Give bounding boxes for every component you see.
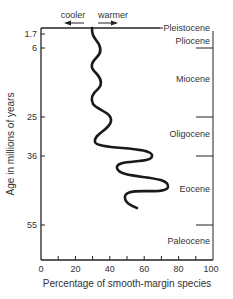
epoch-label-oligocene: Oligocene <box>169 129 210 139</box>
y-tick-label: 55 <box>27 220 37 230</box>
x-tick-label: 0 <box>38 264 43 274</box>
epoch-label-pliocene: Pliocene <box>175 36 210 46</box>
y-tick-label: 25 <box>27 112 37 122</box>
y-axis-label: Age in millions of years <box>5 93 16 196</box>
x-tick-label: 40 <box>105 264 115 274</box>
epoch-label-pleistocene: Pleistocene <box>163 23 210 33</box>
x-axis-label: Percentage of smooth-margin species <box>43 278 211 289</box>
epoch-label-eocene: Eocene <box>179 184 210 194</box>
y-tick-label: 1.7 <box>24 29 37 39</box>
chart: cooler warmer 1.7 6 25 36 55 Age in mill… <box>0 0 233 299</box>
y-tick-label: 36 <box>27 151 37 161</box>
warmer-arrow-icon <box>98 21 118 26</box>
y-tick-label: 6 <box>32 43 37 53</box>
x-tick-label: 100 <box>203 264 218 274</box>
data-curve <box>92 28 168 208</box>
warmer-label: warmer <box>97 10 128 20</box>
epoch-label-miocene: Miocene <box>176 74 210 84</box>
x-tick-label: 60 <box>139 264 149 274</box>
cooler-label: cooler <box>61 10 86 20</box>
epoch-label-paleocene: Paleocene <box>167 236 210 246</box>
x-tick-label: 80 <box>174 264 184 274</box>
cooler-arrow-icon <box>64 21 84 26</box>
x-tick-label: 20 <box>70 264 80 274</box>
